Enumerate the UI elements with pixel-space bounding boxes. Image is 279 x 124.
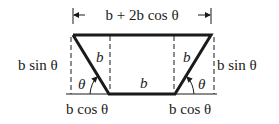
left-height-label: b sin θ (18, 57, 58, 73)
right-angle-label: θ (198, 76, 206, 92)
bottom-label: b (140, 75, 148, 91)
left-angle-arc (90, 77, 97, 94)
right-side-label: b (183, 49, 191, 65)
trapezoid-diagram: b + 2b cos θ b sin θ b sin θ b b b θ θ b… (0, 0, 279, 124)
left-side-label: b (96, 49, 104, 65)
left-angle-label: θ (78, 76, 86, 92)
right-height-label: b sin θ (217, 57, 257, 73)
top-width-label: b + 2b cos θ (105, 7, 178, 23)
right-angle-arc (187, 77, 194, 94)
right-base-proj-label: b cos θ (169, 101, 211, 117)
left-base-proj-label: b cos θ (66, 101, 108, 117)
top-dimension: b + 2b cos θ (73, 7, 211, 24)
